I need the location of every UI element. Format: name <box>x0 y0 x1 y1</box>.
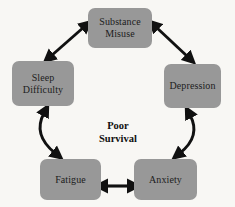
node-substance-misuse: Substance Misuse <box>88 8 152 48</box>
arrow-fatigue-to-sleep-difficulty <box>40 113 55 153</box>
center-label: Poor Survival <box>83 120 153 145</box>
arrow-sleep-difficulty-to-substance-misuse <box>51 27 84 56</box>
node-anxiety: Anxiety <box>134 159 197 200</box>
node-sleep-difficulty: Sleep Difficulty <box>12 61 74 106</box>
arrow-depression-to-anxiety <box>180 115 194 153</box>
node-sleep-difficulty-label: Sleep Difficulty <box>23 72 63 96</box>
node-depression-label: Depression <box>170 80 216 92</box>
node-substance-misuse-label: Substance Misuse <box>99 16 140 40</box>
diagram-canvas: Substance Misuse Depression Anxiety Fati… <box>0 0 235 207</box>
arrow-substance-misuse-to-depression <box>156 27 188 57</box>
node-fatigue-label: Fatigue <box>55 174 86 186</box>
node-fatigue: Fatigue <box>40 159 101 200</box>
node-depression: Depression <box>164 64 221 108</box>
node-anxiety-label: Anxiety <box>149 174 182 186</box>
